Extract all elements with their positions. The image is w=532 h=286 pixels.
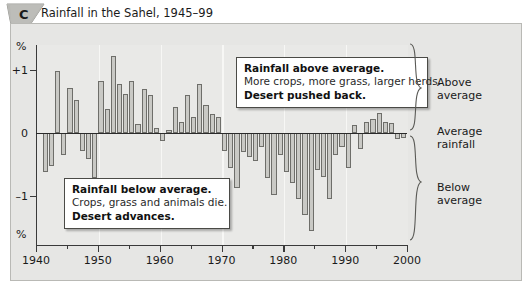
- bar: [339, 133, 344, 147]
- bar: [129, 81, 134, 133]
- range-braces-icon: [408, 40, 434, 250]
- y-tick-minus1: [30, 196, 36, 197]
- bar: [364, 122, 369, 133]
- x-label-1960: 1960: [146, 254, 174, 267]
- bar: [61, 133, 66, 155]
- callout-above-average: Rainfall above average. More crops, more…: [236, 57, 428, 108]
- bar: [253, 133, 258, 161]
- bar: [259, 133, 264, 147]
- bar: [383, 122, 388, 133]
- bar: [377, 113, 382, 133]
- x-label-1970: 1970: [208, 254, 236, 267]
- y-label-zero: 0: [6, 127, 28, 140]
- bar: [80, 133, 85, 151]
- bar: [173, 107, 178, 133]
- bar: [302, 133, 307, 215]
- x-tick-1995: [376, 245, 377, 249]
- badge-letter: C: [19, 7, 29, 22]
- bar: [327, 133, 332, 199]
- bar: [203, 105, 208, 133]
- bar: [43, 133, 48, 172]
- x-tick-1945: [67, 245, 68, 249]
- bar: [216, 117, 221, 133]
- callout-below-line3: Desert advances.: [72, 210, 222, 223]
- bar: [135, 124, 140, 133]
- bar: [117, 84, 122, 133]
- x-tick-1960: [160, 245, 161, 252]
- bar: [142, 89, 147, 133]
- bar: [358, 133, 363, 149]
- y-unit-bottom: %: [16, 228, 26, 241]
- bar: [197, 84, 202, 133]
- bar: [222, 133, 227, 151]
- x-tick-1940: [36, 245, 37, 252]
- bar: [67, 88, 72, 133]
- bar: [191, 117, 196, 133]
- side-label-below-average: Below average: [437, 182, 482, 208]
- side-label-average-rainfall: Average rainfall: [437, 126, 482, 152]
- bar: [92, 133, 97, 178]
- side-label-average-line2: rainfall: [437, 139, 482, 152]
- bar: [333, 133, 338, 155]
- callout-below-line2: Crops, grass and animals die.: [72, 196, 222, 209]
- bar: [210, 114, 215, 133]
- bar: [185, 95, 190, 133]
- x-label-1950: 1950: [84, 254, 112, 267]
- y-tick-plus1: [30, 70, 36, 71]
- bar: [309, 133, 314, 231]
- x-label-1990: 1990: [331, 254, 359, 267]
- bar: [321, 133, 326, 177]
- chart-page: C Rainfall in the Sahel, 1945–99 % +1 0 …: [0, 0, 532, 286]
- callout-above-line2: More crops, more grass, larger herds.: [244, 75, 420, 88]
- bar: [278, 133, 283, 155]
- bar: [271, 133, 276, 195]
- y-label-plus1: +1: [6, 64, 28, 77]
- callout-below-line1: Rainfall below average.: [72, 183, 222, 196]
- bar: [86, 133, 91, 159]
- bar: [241, 133, 246, 152]
- bar: [234, 133, 239, 188]
- callout-below-average: Rainfall below average. Crops, grass and…: [64, 178, 230, 229]
- bar: [352, 125, 357, 133]
- bar: [389, 123, 394, 133]
- x-tick-1970: [222, 245, 223, 252]
- bar: [284, 133, 289, 172]
- page-title: Rainfall in the Sahel, 1945–99: [41, 6, 213, 20]
- y-unit-top: %: [16, 40, 26, 53]
- bar: [296, 133, 301, 199]
- zero-axis-line: [36, 133, 407, 134]
- bar: [370, 119, 375, 133]
- x-tick-1980: [283, 245, 284, 252]
- callout-above-line3: Desert pushed back.: [244, 89, 420, 102]
- x-label-1980: 1980: [269, 254, 297, 267]
- bottom-margin: [0, 282, 532, 286]
- x-tick-1955: [129, 245, 130, 249]
- bar: [247, 133, 252, 157]
- side-label-below-line2: average: [437, 195, 482, 208]
- y-label-minus1: –1: [6, 190, 28, 203]
- side-label-above-line2: average: [437, 90, 482, 103]
- x-tick-1990: [345, 245, 346, 252]
- bar: [74, 100, 79, 133]
- side-label-above-average: Above average: [437, 77, 482, 103]
- bar: [148, 95, 153, 133]
- bar: [111, 56, 116, 133]
- bar: [265, 133, 270, 178]
- bar: [123, 94, 128, 133]
- bar: [49, 133, 54, 166]
- x-tick-1950: [98, 245, 99, 252]
- bar: [290, 133, 295, 183]
- x-tick-1985: [314, 245, 315, 249]
- bar: [346, 133, 351, 168]
- x-label-2000: 2000: [393, 254, 421, 267]
- bar: [228, 133, 233, 168]
- bar: [105, 109, 110, 133]
- bar: [315, 133, 320, 170]
- bar: [179, 122, 184, 133]
- bar: [55, 71, 60, 133]
- bar: [98, 81, 103, 133]
- x-tick-1975: [252, 245, 253, 249]
- x-tick-1965: [191, 245, 192, 249]
- x-label-1940: 1940: [22, 254, 50, 267]
- callout-above-line1: Rainfall above average.: [244, 62, 420, 75]
